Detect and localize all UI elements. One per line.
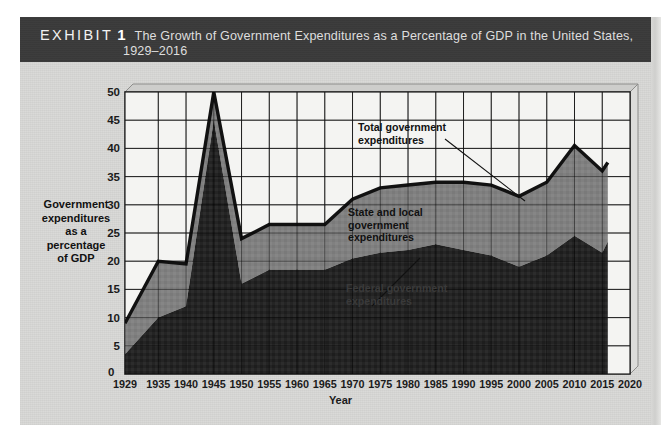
exhibit-header-line1: EXHIBIT1The Growth of Government Expendi… (40, 26, 633, 44)
exhibit-title-line2: 1929–2016 (123, 44, 187, 58)
chart-container: Government expenditures as a percentage … (20, 62, 661, 425)
exhibit-number: 1 (117, 26, 125, 43)
annotation-state-local: State and local government expenditures (348, 206, 423, 244)
exhibit-word: EXHIBIT (40, 27, 113, 43)
leader-line-total (445, 139, 525, 201)
annotation-total-government: Total government expenditures (358, 121, 446, 146)
annotation-leader-lines (20, 62, 661, 425)
exhibit-title-line1: The Growth of Government Expenditures as… (135, 29, 634, 43)
annotation-federal: Federal government expenditures (346, 282, 447, 307)
exhibit-page: EXHIBIT1The Growth of Government Expendi… (0, 0, 661, 425)
exhibit-header-bar: EXHIBIT1The Growth of Government Expendi… (20, 17, 651, 62)
